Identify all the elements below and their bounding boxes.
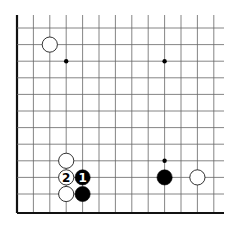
go-board: 21 xyxy=(0,0,236,229)
white-stone: 2 xyxy=(59,170,74,185)
star-point-icon xyxy=(64,59,68,63)
black-stone xyxy=(75,186,90,201)
move-number-label: 2 xyxy=(62,171,70,185)
white-stone xyxy=(190,170,205,185)
black-stone: 1 xyxy=(75,170,90,185)
move-number-label: 1 xyxy=(78,171,86,185)
star-point-icon xyxy=(162,159,166,163)
white-stone xyxy=(59,186,74,201)
black-stone xyxy=(157,170,172,185)
star-point-icon xyxy=(162,59,166,63)
white-stone xyxy=(42,37,57,52)
white-stone xyxy=(59,153,74,168)
